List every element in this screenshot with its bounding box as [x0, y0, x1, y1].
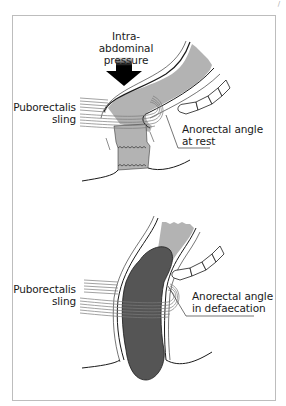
label-pressure-line2: pressure: [86, 54, 166, 66]
label-sling-def-line1: Puborectalis: [10, 283, 76, 295]
coccyx-defaecation: [172, 246, 224, 280]
label-sling-rest-line1: Puborectalis: [10, 101, 76, 113]
label-angle-def-line2: in defaecation: [192, 302, 282, 314]
label-pressure-line1: Intra-abdominal: [86, 30, 166, 54]
label-angle-def-line1: Anorectal angle: [192, 290, 282, 302]
label-sling-defaecation: Puborectalis sling: [10, 283, 76, 307]
label-sling-def-line2: sling: [10, 295, 76, 307]
label-angle-rest: Anorectal angle at rest: [182, 123, 278, 147]
label-angle-rest-line2: at rest: [182, 135, 278, 147]
label-sling-rest-line2: sling: [10, 113, 76, 125]
label-sling-rest: Puborectalis sling: [10, 101, 76, 125]
label-angle-defaecation: Anorectal angle in defaecation: [192, 290, 282, 314]
label-pressure: Intra-abdominal pressure: [86, 30, 166, 66]
label-angle-rest-line1: Anorectal angle: [182, 123, 278, 135]
